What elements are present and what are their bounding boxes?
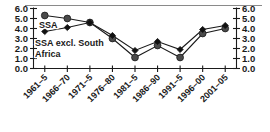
data-point-1-7 [177,54,184,61]
y-axis-label-left: 3.0 [15,33,28,44]
data-point-1-2 [64,15,71,22]
legend-label-ssa-excl-line1: SSA excl. South [35,38,104,48]
y-axis-label-left: 6.0 [15,3,28,14]
y-axis-label-left: 2.0 [15,43,28,54]
y-axis-label-left: 0.0 [15,63,28,74]
data-point-2-5 [132,47,138,53]
y-axis-label-right: 5.0 [242,13,255,24]
chart-container: 0.00.01.01.02.02.03.03.04.04.05.05.06.06… [0,0,270,132]
y-axis-label-right: 6.0 [242,3,255,14]
legend-label-ssa-excl-line2: Africa [35,49,62,59]
y-axis-label-right: 4.0 [242,23,255,34]
y-axis-label-left: 5.0 [15,13,28,24]
y-axis-label-right: 0.0 [242,63,255,74]
y-axis-label-right: 3.0 [242,33,255,44]
y-axis-label-left: 1.0 [15,53,28,64]
legend-label-ssa: SSA [39,20,58,30]
y-axis-label-right: 1.0 [242,53,255,64]
data-point-1-1 [41,12,48,19]
y-axis-label-right: 2.0 [242,43,255,54]
y-axis-label-left: 4.0 [15,23,28,34]
data-point-2-2 [64,24,70,30]
line-chart: 0.00.01.01.02.02.03.03.04.04.05.05.06.06… [0,0,270,132]
data-point-1-5 [132,54,139,61]
